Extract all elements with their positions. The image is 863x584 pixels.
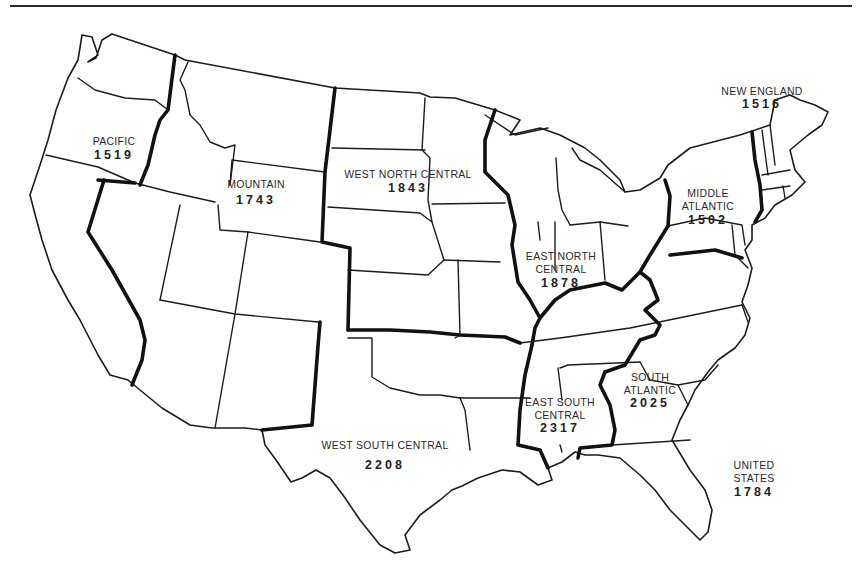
region-value: 1878 xyxy=(516,277,606,290)
region-name: WEST SOUTH CENTRAL xyxy=(315,439,455,452)
label-south-atlantic: SOUTH ATLANTIC 2025 xyxy=(620,371,680,410)
region-name: EAST NORTH xyxy=(516,250,606,263)
region-value: 1516 xyxy=(714,98,810,111)
region-name: EAST SOUTH xyxy=(520,396,600,409)
label-east-north-central: EAST NORTH CENTRAL 1878 xyxy=(516,250,606,290)
region-name: SOUTH xyxy=(620,371,680,384)
label-new-england: NEW ENGLAND 1516 xyxy=(714,85,810,111)
region-value: 1843 xyxy=(338,182,478,195)
label-west-north-central: WEST NORTH CENTRAL 1843 xyxy=(338,168,478,195)
region-name: UNITED xyxy=(722,459,786,472)
us-outline xyxy=(30,34,828,553)
region-name: PACIFIC xyxy=(84,135,144,148)
label-middle-atlantic: MIDDLE ATLANTIC 1502 xyxy=(676,187,740,227)
region-value: 1743 xyxy=(216,194,296,207)
region-name-line2: STATES xyxy=(722,472,786,485)
label-united-states: UNITED STATES 1784 xyxy=(722,459,786,499)
region-value: 2208 xyxy=(315,459,455,472)
region-value: 1784 xyxy=(722,486,786,499)
region-value: 2025 xyxy=(620,397,680,410)
label-pacific: PACIFIC 1519 xyxy=(84,135,144,162)
label-mountain: MOUNTAIN 1743 xyxy=(216,178,296,207)
region-value: 2317 xyxy=(520,422,600,435)
region-name: WEST NORTH CENTRAL xyxy=(338,168,478,181)
region-value: 1502 xyxy=(676,214,740,227)
region-name-line2: CENTRAL xyxy=(516,263,606,276)
region-value: 1519 xyxy=(84,149,144,162)
region-name-line2: ATLANTIC xyxy=(676,200,740,213)
label-west-south-central: WEST SOUTH CENTRAL 2208 xyxy=(315,439,455,472)
label-east-south-central: EAST SOUTH CENTRAL 2317 xyxy=(520,396,600,435)
region-name: MIDDLE xyxy=(676,187,740,200)
region-name: MOUNTAIN xyxy=(216,178,296,191)
